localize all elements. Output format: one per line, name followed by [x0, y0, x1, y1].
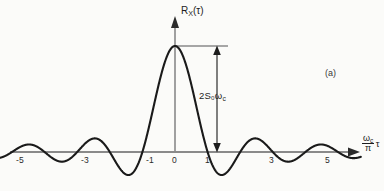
x-axis-label-variable: τ [376, 139, 380, 149]
x-tick-label-minus1: -1 [146, 156, 154, 165]
y-axis-label: RX(τ) [181, 6, 204, 16]
x-tick-label-plus3: 3 [269, 156, 274, 165]
x-tick-label-minus5: -5 [16, 156, 24, 165]
figure-panel: RX(τ) ωc π τ 2S₀ωc (a) -5 -3 -1 0 1 3 5 [0, 0, 384, 191]
sinc-curve [0, 46, 361, 175]
x-axis-label-fraction: ωc π [362, 134, 374, 154]
panel-label: (a) [325, 69, 336, 78]
x-axis-label: ωc π τ [362, 133, 380, 154]
x-axis-arrowhead [348, 148, 360, 157]
x-axis [10, 148, 360, 157]
amplitude-annotation-sub: c [222, 95, 226, 102]
amplitude-arrow-head-top [213, 46, 221, 56]
x-tick-label-plus5: 5 [325, 156, 330, 165]
x-tick-label-minus3: -3 [81, 156, 89, 165]
x-tick-label-zero: 0 [172, 156, 177, 165]
amplitude-annotation-label: 2S₀ωc [199, 91, 226, 101]
y-axis-label-arg: (τ) [193, 5, 204, 16]
x-axis-label-fraction-wrap: ωc π τ [362, 134, 380, 154]
x-tick-label-plus1: 1 [205, 156, 210, 165]
y-axis [171, 16, 179, 152]
x-axis-label-denominator: π [362, 144, 374, 154]
y-axis-arrowhead [171, 16, 179, 28]
amplitude-annotation-text: 2S₀ω [199, 90, 222, 101]
